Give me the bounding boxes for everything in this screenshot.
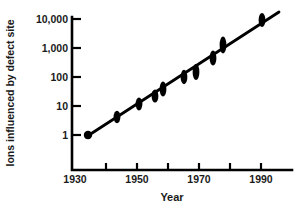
x-tick-labels: 1930 1950 1970 1990 bbox=[63, 173, 273, 185]
chart-container: Ions influenced by defect site Year 10,0… bbox=[0, 0, 303, 215]
data-point bbox=[181, 70, 188, 84]
data-point bbox=[259, 13, 266, 27]
x-tick-label-1990: 1990 bbox=[249, 173, 273, 185]
axis-spines bbox=[72, 17, 292, 170]
y-tick-label-1: 1 bbox=[62, 129, 68, 141]
y-tick-marks bbox=[72, 19, 81, 135]
y-tick-label-10: 10 bbox=[56, 100, 68, 112]
x-tick-label-1970: 1970 bbox=[187, 173, 211, 185]
data-point bbox=[114, 111, 121, 123]
y-tick-label-1000: 1,000 bbox=[42, 42, 68, 54]
data-point bbox=[193, 64, 200, 80]
y-tick-label-10000: 10,000 bbox=[36, 13, 68, 25]
y-tick-labels: 10,000 1,000 100 10 1 bbox=[36, 13, 68, 141]
data-point bbox=[210, 50, 217, 65]
y-tick-label-100: 100 bbox=[50, 71, 68, 83]
y-axis-title: Ions influenced by defect site bbox=[4, 19, 16, 166]
data-point bbox=[220, 37, 227, 54]
data-point bbox=[136, 98, 143, 111]
semilog-scatter-chart: Ions influenced by defect site Year 10,0… bbox=[0, 0, 303, 215]
x-axis-title-text: Year bbox=[160, 191, 184, 203]
x-tick-label-1950: 1950 bbox=[125, 173, 149, 185]
data-point bbox=[160, 82, 167, 97]
data-point bbox=[84, 131, 92, 139]
y-axis-title-text: Ions influenced by defect site bbox=[4, 19, 16, 166]
x-tick-label-1930: 1930 bbox=[63, 173, 87, 185]
data-point bbox=[152, 89, 159, 102]
